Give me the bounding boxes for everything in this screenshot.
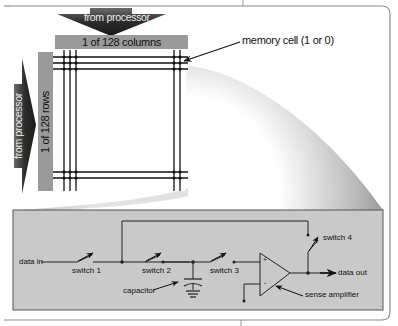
switch2-label: switch 2 [142,266,171,275]
amp-minus-label: - [264,279,266,286]
top-arrow-label: from processor [84,11,140,23]
sense-amplifier-label: sense amplifier [305,290,359,299]
memory-cell-label: memory cell (1 or 0) [242,34,334,46]
data-out-label: data out [338,268,367,277]
columns-bar-label: 1 of 128 columns [55,35,188,49]
amp-plus-label: + [263,256,267,263]
switch4-label: switch 4 [323,233,352,242]
data-in-label: data in [19,257,43,266]
cell-grid-bg [53,50,185,191]
switch1-label: switch 1 [72,266,101,275]
rows-bar-label: 1 of 128 rows [38,82,52,162]
switch3-label: switch 3 [210,266,239,275]
capacitor-label: capacitor [123,286,155,295]
callout-arrow [184,42,240,61]
left-arrow-label: from processor [12,91,24,161]
